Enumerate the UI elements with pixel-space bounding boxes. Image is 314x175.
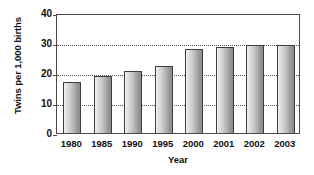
bar-chart: Twins per 1,000 births 010203040 1980198… xyxy=(0,0,314,175)
bar xyxy=(124,71,142,134)
x-tick-label: 2002 xyxy=(239,138,270,150)
x-axis-tick-labels: 19801985199019952000200120022003 xyxy=(56,138,300,152)
y-tick-label: 40 xyxy=(32,9,52,19)
bar xyxy=(277,45,295,134)
x-tick-label: 2000 xyxy=(178,138,209,150)
y-axis-title: Twins per 1,000 births xyxy=(12,2,23,130)
y-tick-label: 10 xyxy=(32,99,52,109)
bar xyxy=(155,66,173,134)
bar xyxy=(246,45,264,134)
x-tick-label: 2001 xyxy=(209,138,240,150)
y-tick-label: 20 xyxy=(32,69,52,79)
x-tick-label: 1980 xyxy=(56,138,87,150)
bar xyxy=(216,47,234,134)
plot-area xyxy=(56,14,300,134)
y-tick-label: 0 xyxy=(32,129,52,139)
bar xyxy=(63,82,81,134)
y-tick-mark xyxy=(53,135,57,136)
bar xyxy=(94,76,112,134)
y-tick-label: 30 xyxy=(32,39,52,49)
x-tick-label: 1995 xyxy=(148,138,179,150)
bar xyxy=(185,49,203,134)
x-axis-baseline xyxy=(57,133,299,134)
x-axis-title: Year xyxy=(56,154,300,165)
x-tick-label: 1985 xyxy=(87,138,118,150)
x-tick-label: 1990 xyxy=(117,138,148,150)
y-axis-tick-labels: 010203040 xyxy=(30,0,52,175)
x-tick-label: 2003 xyxy=(270,138,301,150)
bars-group xyxy=(57,15,299,134)
